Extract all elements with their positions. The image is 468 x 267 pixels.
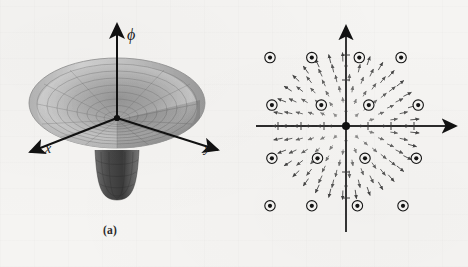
field-arrow: [372, 163, 376, 169]
field-arrow: [278, 150, 286, 153]
hat-stem: [95, 150, 139, 200]
field-arrow: [389, 160, 395, 165]
field-arrow: [326, 156, 329, 161]
field-arrow: [307, 77, 312, 83]
field-arrow: [396, 99, 403, 103]
field-arrow: [367, 57, 370, 66]
field-arrow: [387, 144, 394, 147]
field-arrow: [319, 69, 323, 76]
y-axis-label-a: y: [204, 140, 210, 156]
vortex-marker: [352, 201, 362, 211]
field-arrow: [381, 154, 387, 159]
field-arrow: [388, 175, 394, 182]
field-arrow: [355, 135, 358, 138]
field-arrow: [369, 119, 374, 120]
field-arrow: [378, 138, 384, 140]
field-arrow: [361, 168, 363, 175]
field-arrow: [378, 112, 384, 114]
vortex-marker: [413, 100, 423, 110]
field-arrow: [284, 161, 292, 166]
field-arrow: [308, 138, 314, 140]
field-arrow: [400, 112, 408, 114]
field-arrow: [396, 150, 403, 154]
field-arrow: [307, 169, 312, 175]
field-arrow: [378, 62, 383, 70]
vortex-marker: [312, 153, 322, 163]
field-arrow: [329, 189, 331, 198]
field-arrow: [370, 176, 374, 183]
field-arrow: [326, 91, 329, 96]
x-axis-label-a: x: [45, 141, 51, 157]
field-arrow: [315, 148, 320, 152]
field-arrow: [293, 171, 300, 177]
field-arrow: [397, 166, 404, 172]
field-arrow: [315, 185, 319, 193]
field-arrow: [297, 160, 303, 165]
field-arrow: [311, 88, 316, 93]
field-arrow: [349, 171, 350, 178]
field-arrow: [320, 113, 325, 116]
field-arrow: [380, 77, 385, 83]
field-arrow: [297, 87, 303, 92]
field-arrow: [358, 180, 360, 188]
field-arrow: [354, 148, 356, 153]
field-arrow: [354, 99, 356, 104]
field-arrow: [369, 132, 374, 133]
field-arrow: [343, 97, 344, 102]
field-arrow: [330, 145, 333, 149]
field-arrow: [329, 55, 331, 64]
field-arrow: [343, 149, 344, 154]
field-arrow: [370, 69, 374, 76]
field-arrow: [367, 187, 370, 196]
field-arrow: [410, 132, 419, 133]
field-arrow: [284, 138, 292, 140]
field-arrow: [355, 114, 358, 117]
field-arrow: [400, 138, 408, 140]
field-arrow: [302, 99, 308, 103]
field-arrow: [381, 93, 387, 98]
field-arrow: [303, 66, 308, 73]
vortex-markers: [265, 52, 424, 211]
vortex-marker: [267, 100, 277, 110]
field-arrow: [296, 112, 303, 114]
field-arrow: [352, 86, 353, 92]
field-arrow: [403, 156, 411, 160]
field-arrow: [335, 75, 337, 82]
field-arrow: [387, 105, 394, 108]
field-arrow: [380, 169, 385, 175]
origin-dot-a: [114, 115, 120, 121]
field-arrow: [388, 70, 394, 77]
field-arrow: [335, 170, 337, 177]
field-arrow: [378, 182, 383, 190]
field-arrow: [284, 112, 292, 114]
field-arrow: [339, 160, 340, 166]
field-arrow: [349, 74, 350, 81]
field-arrow: [410, 119, 419, 120]
caption-a: (a): [103, 224, 117, 236]
field-arrow: [303, 179, 308, 186]
vortex-marker: [360, 153, 370, 163]
vortex-marker: [411, 153, 421, 163]
field-arrow: [296, 138, 303, 140]
field-arrow: [364, 142, 368, 146]
field-arrow: [390, 132, 397, 133]
vortex-marker: [364, 100, 374, 110]
vortex-marker: [307, 52, 317, 62]
field-arrow: [372, 84, 376, 90]
field-arrow: [320, 137, 325, 140]
field-arrow: [284, 86, 292, 91]
field-arrow: [289, 150, 296, 154]
vortex-marker: [267, 153, 277, 163]
field-arrow: [339, 86, 340, 92]
hat-bowl: [37, 62, 200, 160]
panel-mexican-hat: ϕ x y (a): [0, 0, 234, 267]
field-arrow: [334, 114, 337, 117]
field-arrow: [355, 190, 356, 199]
field-arrow: [293, 75, 300, 81]
field-arrow: [352, 160, 353, 166]
field-arrow: [289, 99, 296, 103]
vortex-marker: [398, 201, 408, 211]
field-arrow: [334, 135, 337, 138]
figure-container: ϕ x y (a): [0, 0, 468, 267]
origin-dot-b: [342, 122, 350, 130]
